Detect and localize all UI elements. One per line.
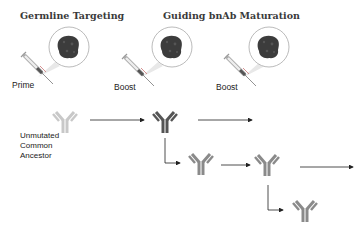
label-line: Ancestor	[20, 151, 59, 161]
antibody-branch2-icon	[293, 201, 317, 222]
protein-immunogen-icon	[161, 36, 182, 58]
diagram-canvas	[0, 0, 361, 230]
label-prime: Prime	[12, 80, 34, 90]
antibody-boost1-icon	[153, 112, 177, 133]
arrow-branch-2	[268, 185, 283, 210]
immunization-boost-2	[224, 27, 289, 86]
arrow-branch-1	[165, 138, 180, 163]
label-boost-2: Boost	[216, 82, 238, 92]
immunization-prime	[21, 27, 89, 84]
label-unmutated-common-ancestor: Unmutated Common Ancestor	[20, 131, 59, 161]
label-line: Common	[20, 141, 59, 151]
antibody-branch1-icon	[189, 154, 213, 175]
protein-immunogen-icon	[258, 36, 279, 58]
immunization-boost-1	[122, 27, 192, 86]
antibody-boost2-icon	[255, 155, 279, 176]
protein-immunogen-icon	[58, 36, 79, 58]
label-line: Unmutated	[20, 131, 59, 141]
label-boost-1: Boost	[114, 82, 136, 92]
antibody-uca-icon	[53, 112, 77, 133]
